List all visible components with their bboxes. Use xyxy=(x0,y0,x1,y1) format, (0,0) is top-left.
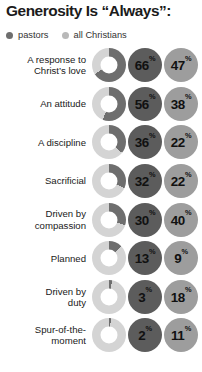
chart-row: Sacrificial32%22% xyxy=(0,162,202,201)
value-bubble-all-christians: 38% xyxy=(164,87,198,121)
percent-sign: % xyxy=(149,92,156,101)
value-bubble-all-christians: 9% xyxy=(164,241,198,275)
chart-rows: A response toChrist’s love66%47%An attit… xyxy=(0,46,202,355)
infographic-root: Generosity Is “Always”: pastorsall Chris… xyxy=(0,0,202,372)
donut-chart-pastors xyxy=(92,87,126,121)
percent-sign: % xyxy=(185,92,192,101)
chart-row: Spur-of-the-moment2%11% xyxy=(0,316,202,355)
value-bubble-pastors: 32% xyxy=(128,164,162,198)
percent-sign: % xyxy=(182,247,189,256)
donut-chart-pastors xyxy=(92,48,126,82)
row-label: An attitude xyxy=(0,98,92,109)
row-label: A discipline xyxy=(0,137,92,148)
bubble-value-wrap: 66% xyxy=(135,56,156,74)
legend-item-pastors: pastors xyxy=(6,30,49,40)
donut-hole xyxy=(101,134,118,151)
bubble-value-wrap: 30% xyxy=(135,211,156,229)
value-bubble-pastors: 3% xyxy=(128,280,162,314)
bubble-value-wrap: 18% xyxy=(171,288,192,306)
bubble-value: 9 xyxy=(174,251,181,266)
legend: pastorsall Christians xyxy=(6,28,140,42)
bubble-value-wrap: 11% xyxy=(171,326,191,344)
bubble-value-wrap: 22% xyxy=(171,172,192,190)
bubble-value-wrap: 2% xyxy=(138,326,152,344)
donut-hole xyxy=(101,173,118,190)
value-bubble-all-christians: 22% xyxy=(164,125,198,159)
chart-row: Driven byduty3%18% xyxy=(0,278,202,317)
bubble-value-wrap: 47% xyxy=(171,56,192,74)
legend-item-label: all Christians xyxy=(74,30,127,40)
bubble-value: 47 xyxy=(171,58,185,73)
value-bubble-all-christians: 40% xyxy=(164,203,198,237)
percent-sign: % xyxy=(146,285,153,294)
chart-row: Driven bycompassion30%40% xyxy=(0,200,202,239)
bubble-value: 30 xyxy=(135,213,149,228)
bubble-value: 2 xyxy=(138,328,145,343)
bubble-value: 3 xyxy=(138,290,145,305)
chart-row: A discipline36%22% xyxy=(0,123,202,162)
percent-sign: % xyxy=(185,131,192,140)
row-marks: 36%22% xyxy=(92,125,202,159)
legend-dot-icon xyxy=(62,32,69,39)
percent-sign: % xyxy=(149,170,156,179)
bubble-value: 22 xyxy=(171,135,185,150)
bubble-value: 38 xyxy=(171,97,185,112)
value-bubble-all-christians: 18% xyxy=(164,280,198,314)
row-marks: 56%38% xyxy=(92,87,202,121)
row-label: Driven byduty xyxy=(0,286,92,308)
bubble-value-wrap: 3% xyxy=(138,288,152,306)
bubble-value: 18 xyxy=(171,290,185,305)
row-marks: 32%22% xyxy=(92,164,202,198)
donut-chart-pastors xyxy=(92,164,126,198)
value-bubble-pastors: 56% xyxy=(128,87,162,121)
percent-sign: % xyxy=(146,324,153,333)
value-bubble-pastors: 36% xyxy=(128,125,162,159)
value-bubble-pastors: 2% xyxy=(128,318,162,352)
bubble-value-wrap: 9% xyxy=(174,249,188,267)
value-bubble-all-christians: 22% xyxy=(164,164,198,198)
value-bubble-pastors: 30% xyxy=(128,203,162,237)
row-label: Sacrificial xyxy=(0,175,92,186)
row-label: A response toChrist’s love xyxy=(0,54,92,76)
bubble-value-wrap: 38% xyxy=(171,95,192,113)
percent-sign: % xyxy=(185,170,192,179)
row-marks: 3%18% xyxy=(92,280,202,314)
chart-row: An attitude56%38% xyxy=(0,85,202,124)
donut-chart-pastors xyxy=(92,203,126,237)
legend-item-label: pastors xyxy=(18,30,49,40)
donut-chart-pastors xyxy=(92,125,126,159)
bubble-value-wrap: 32% xyxy=(135,172,156,190)
percent-sign: % xyxy=(149,247,156,256)
bubble-value: 13 xyxy=(135,251,149,266)
bubble-value: 11 xyxy=(171,328,184,343)
row-label: Planned xyxy=(0,253,92,264)
row-label: Spur-of-the-moment xyxy=(0,324,92,346)
legend-dot-icon xyxy=(6,32,13,39)
bubble-value-wrap: 40% xyxy=(171,211,192,229)
donut-hole xyxy=(101,250,118,267)
value-bubble-all-christians: 11% xyxy=(164,318,198,352)
donut-hole xyxy=(101,57,118,74)
donut-hole xyxy=(101,288,118,305)
value-bubble-all-christians: 47% xyxy=(164,48,198,82)
row-marks: 2%11% xyxy=(92,318,202,352)
donut-chart-pastors xyxy=(92,280,126,314)
bubble-value-wrap: 56% xyxy=(135,95,156,113)
page-title: Generosity Is “Always”: xyxy=(6,2,202,20)
bubble-value: 40 xyxy=(171,213,185,228)
bubble-value: 22 xyxy=(171,174,185,189)
chart-row: Planned13%9% xyxy=(0,239,202,278)
bubble-value: 36 xyxy=(135,135,149,150)
percent-sign: % xyxy=(185,208,192,217)
percent-sign: % xyxy=(185,324,192,333)
row-marks: 66%47% xyxy=(92,48,202,82)
donut-chart-pastors xyxy=(92,318,126,352)
donut-chart-pastors xyxy=(92,241,126,275)
donut-hole xyxy=(101,327,118,344)
bubble-value-wrap: 22% xyxy=(171,133,192,151)
legend-item-all-christians: all Christians xyxy=(62,30,127,40)
bubble-value-wrap: 13% xyxy=(135,249,156,267)
chart-row: A response toChrist’s love66%47% xyxy=(0,46,202,85)
value-bubble-pastors: 13% xyxy=(128,241,162,275)
row-label: Driven bycompassion xyxy=(0,208,92,230)
